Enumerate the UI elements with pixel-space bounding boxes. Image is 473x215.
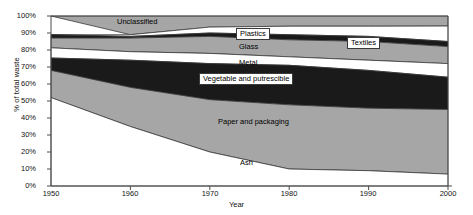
area-label-ash: Ash <box>240 158 253 167</box>
area-label-paper: Paper and packaging <box>218 117 289 126</box>
area-label-textiles: Textiles <box>347 37 380 49</box>
area-label-unclassified: Unclassified <box>117 17 157 26</box>
chart-container: % of total waste 100% 90% 80% 70% 60% 50… <box>0 0 473 215</box>
area-label-vegetable: Vegetable and putrescible <box>199 73 293 85</box>
area-label-metal: Metal <box>239 58 257 67</box>
area-label-plastics: Plastics <box>236 28 270 40</box>
area-label-glass: Glass <box>239 42 258 51</box>
